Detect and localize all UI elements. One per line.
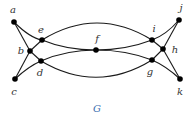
vertex-label-e: e [38,24,44,35]
vertex-k [177,76,183,82]
edge-f-i [96,40,152,50]
vertex-label-b: b [18,45,24,56]
edge-d-g [41,60,152,77]
vertex-label-j: j [177,2,182,13]
graph-name-label: G [93,103,101,114]
edge-f-g [96,50,152,60]
vertex-g [149,57,155,63]
vertex-b [27,48,33,54]
edge-k-g [152,60,180,79]
vertex-h [160,46,166,52]
vertex-c [12,76,18,82]
edge-e-f [42,40,96,50]
vertex-label-i: i [152,23,155,34]
vertex-label-f: f [94,33,101,44]
edge-d-f [41,50,96,61]
vertex-j [176,17,182,23]
vertex-f [93,47,99,53]
vertex-label-a: a [10,4,16,15]
vertex-label-g: g [147,66,153,77]
vertex-d [38,58,44,64]
vertex-label-d: d [37,67,43,78]
vertex-e [39,37,45,43]
graph-diagram: abcdefghijk G [0,0,194,124]
vertex-a [11,19,17,25]
edge-j-i [152,20,179,40]
vertex-i [149,37,155,43]
vertex-label-h: h [172,44,178,55]
vertex-label-c: c [11,86,17,97]
vertex-label-k: k [177,86,183,97]
